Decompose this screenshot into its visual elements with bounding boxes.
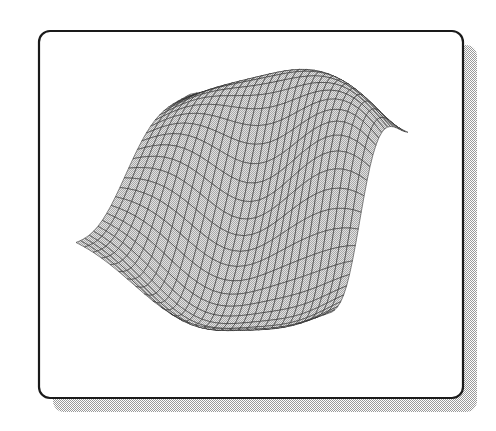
figure-canvas — [0, 0, 496, 431]
page-root: 3D Surface Mesh Plot A three-dimensional… — [0, 0, 496, 431]
